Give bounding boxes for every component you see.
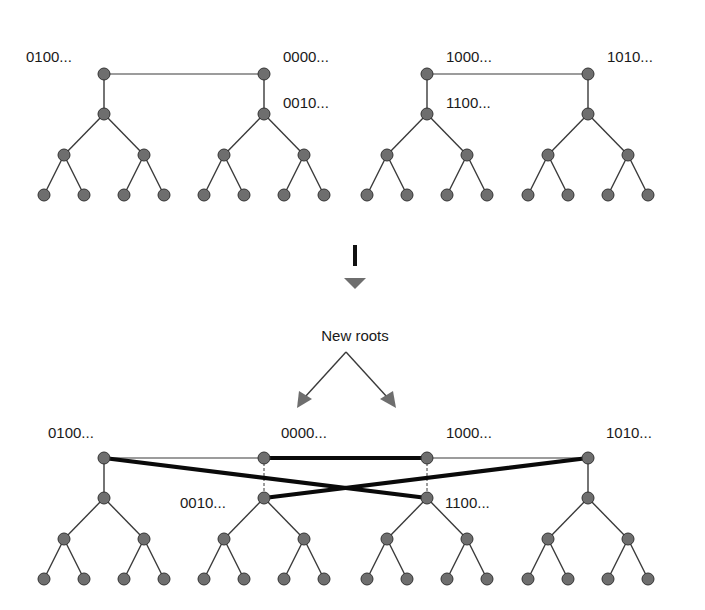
tree-edge (304, 155, 324, 195)
tree-node (361, 573, 373, 585)
tree-node (582, 68, 594, 80)
tree-node (622, 149, 634, 161)
tree-node (38, 573, 50, 585)
tree-node (481, 573, 493, 585)
tree-edge (467, 155, 487, 195)
tree-node (198, 189, 210, 201)
tree-node (522, 189, 534, 201)
tree-edge (447, 155, 467, 195)
tree-edge (64, 155, 84, 195)
prefix-label: 0010... (180, 494, 226, 511)
down-arrow-icon (344, 245, 366, 289)
new-roots-pointer-arrows (297, 352, 396, 408)
bottom-new-root-links (104, 458, 588, 498)
tree-node (218, 149, 230, 161)
tree-node (602, 573, 614, 585)
tree-node (78, 573, 90, 585)
tree-edge (387, 155, 407, 195)
tree-node (98, 452, 110, 464)
tree-edge (264, 498, 304, 539)
tree-edge (608, 155, 628, 195)
tree-node (38, 189, 50, 201)
tree-node (421, 68, 433, 80)
tree-node (441, 189, 453, 201)
tree-edge (427, 114, 467, 155)
tree-node (622, 533, 634, 545)
tree-edge (467, 539, 487, 579)
tree-edge (224, 498, 264, 539)
tree-edge (367, 539, 387, 579)
tree-edge (548, 498, 588, 539)
tree-edge (284, 155, 304, 195)
prefix-label: 0010... (283, 94, 329, 111)
tree-node (258, 492, 270, 504)
tree-node (78, 189, 90, 201)
prefix-label: 1100... (445, 494, 490, 511)
tree-node (542, 533, 554, 545)
tree-edge (284, 539, 304, 579)
tree-node (98, 68, 110, 80)
tree-node (361, 189, 373, 201)
top-labels: 0100...0000...0010...1000...1100...1010.… (26, 48, 653, 111)
tree-node (58, 533, 70, 545)
tree-node (642, 573, 654, 585)
tree-node (461, 533, 473, 545)
tree-edge (387, 498, 427, 539)
prefix-label: 1010... (606, 424, 652, 441)
tree-edge (124, 539, 144, 579)
tree-node (562, 573, 574, 585)
tree-node (522, 573, 534, 585)
tree-edge (64, 539, 84, 579)
tree-node (481, 189, 493, 201)
tree-node (278, 573, 290, 585)
tree-edge (264, 114, 304, 155)
tree-node (138, 149, 150, 161)
tree-node (401, 573, 413, 585)
tree-node (258, 68, 270, 80)
tree-node (58, 149, 70, 161)
tree-node (278, 189, 290, 201)
tree-edge (528, 155, 548, 195)
prefix-label: 0000... (283, 48, 329, 65)
tree-edge (628, 539, 648, 579)
tree-node (298, 533, 310, 545)
tree-edge (528, 539, 548, 579)
tree-node (118, 189, 130, 201)
tree-node (381, 149, 393, 161)
tree-node (602, 189, 614, 201)
tree-node (318, 189, 330, 201)
tree-node (258, 452, 270, 464)
tree-edge (447, 539, 467, 579)
tree-node (118, 573, 130, 585)
tree-edge (628, 155, 648, 195)
tree-node (421, 492, 433, 504)
new-roots-label: New roots (321, 327, 389, 344)
prefix-label: 1010... (607, 48, 653, 65)
tree-node (98, 492, 110, 504)
tree-edge (548, 114, 588, 155)
tree-edge (64, 114, 104, 155)
tree-edge (224, 114, 264, 155)
tree-node (258, 108, 270, 120)
tree-edge (44, 155, 64, 195)
tree-edge (224, 155, 244, 195)
tree-edge (204, 155, 224, 195)
tree-edge (144, 155, 164, 195)
prefix-label: 1100... (446, 94, 491, 111)
tree-edge (104, 114, 144, 155)
tree-node (441, 573, 453, 585)
tree-edge (367, 155, 387, 195)
tree-edge (387, 539, 407, 579)
tree-edge (104, 498, 144, 539)
prefix-label: 1000... (446, 424, 492, 441)
prefix-label: 0100... (26, 48, 72, 65)
tree-node (158, 189, 170, 201)
tree-edge (548, 155, 568, 195)
top-tree-edges (44, 74, 648, 195)
bottom-labels: 0100...0000...1000...1010...0010...1100.… (48, 424, 652, 511)
arrowhead-left-icon (297, 391, 312, 408)
tree-node (461, 149, 473, 161)
tree-merge-diagram: 0100...0000...0010...1000...1100...1010.… (0, 0, 705, 610)
bottom-tree-edges (44, 458, 648, 579)
tree-node (542, 149, 554, 161)
